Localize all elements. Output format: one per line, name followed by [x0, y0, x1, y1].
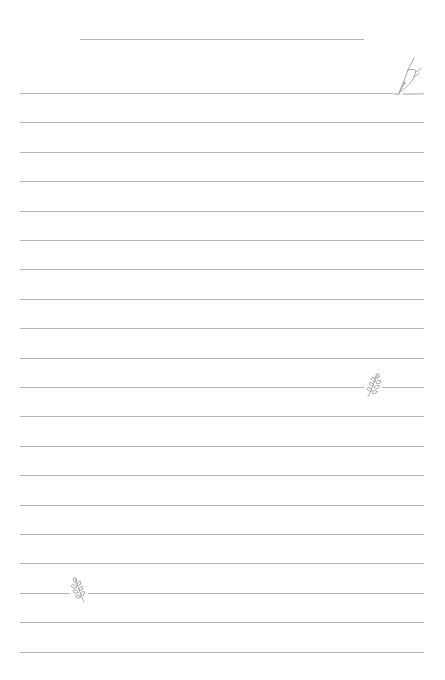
leaf-sprig-icon [70, 577, 88, 603]
ruled-line [20, 240, 424, 241]
ruled-line [20, 446, 424, 447]
ruled-line [20, 269, 424, 270]
ruled-line [20, 475, 424, 476]
ruled-line [20, 505, 424, 506]
ruled-line [20, 122, 424, 123]
title-line [80, 39, 364, 40]
ruled-line [20, 652, 424, 653]
ruled-line [20, 328, 424, 329]
ruled-line [20, 358, 424, 359]
lined-notepaper [0, 0, 445, 680]
ruled-line [20, 152, 424, 153]
ruled-line [20, 181, 424, 182]
ruled-line [20, 534, 424, 535]
ruled-line [20, 416, 424, 417]
pen-nib-icon [393, 57, 423, 95]
ruled-line [20, 299, 424, 300]
ruled-line [20, 563, 424, 564]
ruled-line [20, 211, 424, 212]
ruled-line [20, 622, 424, 623]
leaf-sprig-icon [364, 373, 382, 399]
ruled-line [20, 93, 424, 94]
